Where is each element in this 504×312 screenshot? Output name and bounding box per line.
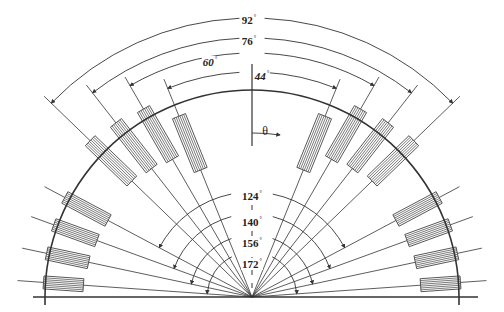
- angle-value: 92: [242, 14, 253, 26]
- angle-label-124: 124°: [241, 190, 263, 202]
- angle-label-140: 140°: [241, 216, 263, 228]
- radial-line: [252, 79, 340, 297]
- dimension-arc-124-right: [273, 194, 345, 248]
- degree-symbol: °: [260, 237, 262, 243]
- element-124-left: [62, 192, 111, 226]
- element-body: [297, 114, 332, 173]
- degree-symbol: °: [254, 35, 256, 41]
- element-156-left: [45, 247, 90, 269]
- radial-line: [86, 85, 252, 297]
- element-44-left: [172, 114, 207, 173]
- angle-value: 60: [203, 56, 214, 68]
- dimension-arc-44-left: [168, 72, 240, 88]
- element-stripe: [144, 109, 173, 159]
- angle-label-92: 92°: [241, 14, 257, 26]
- dimension-arc-124-left: [159, 194, 231, 248]
- degree-symbol: °: [267, 70, 269, 76]
- angle-value: 156: [242, 237, 259, 249]
- array-diagram: 44°60°76°92°124°140°156°172° θ: [0, 0, 504, 312]
- element-body: [414, 247, 459, 269]
- element-body: [45, 247, 90, 269]
- element-body: [172, 114, 207, 173]
- radial-line: [252, 85, 418, 297]
- degree-symbol: °: [215, 56, 217, 62]
- angle-label-172: 172°: [241, 258, 263, 270]
- angle-label-76: 76°: [241, 35, 257, 47]
- dimension-arc-44-right: [265, 72, 337, 88]
- element-172-right: [420, 276, 461, 292]
- angle-value: 140: [242, 216, 259, 228]
- degree-symbol: °: [254, 14, 256, 20]
- radial-line: [164, 79, 252, 297]
- angle-label-60: 60°: [202, 56, 218, 68]
- dimension-arc-60-left: [130, 53, 239, 85]
- element-44-right: [297, 114, 332, 173]
- angle-label-44: 44°: [254, 70, 270, 82]
- element-172-left: [43, 276, 84, 292]
- degree-symbol: °: [260, 190, 262, 196]
- theta-label: θ: [262, 124, 268, 139]
- degree-symbol: °: [260, 258, 262, 264]
- angle-value: 44: [255, 70, 266, 82]
- dimension-arc-60-right: [265, 53, 374, 85]
- angle-value: 124: [242, 190, 259, 202]
- element-124-right: [393, 192, 442, 226]
- angle-value: 76: [242, 35, 253, 47]
- element-stripe: [331, 109, 360, 159]
- angle-value: 172: [242, 258, 259, 270]
- element-156-right: [414, 247, 459, 269]
- degree-symbol: °: [260, 216, 262, 222]
- angle-label-156: 156°: [241, 237, 263, 249]
